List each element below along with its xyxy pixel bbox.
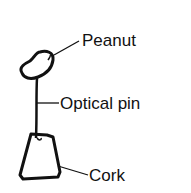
peanut-label: Peanut: [82, 32, 136, 49]
optical-pin: [36, 78, 37, 138]
peanut-crease: [48, 55, 50, 60]
cork-leader: [58, 166, 88, 175]
cork-label: Cork: [89, 167, 125, 184]
peanut-shape: [21, 51, 53, 78]
cork-pin-tip: [37, 138, 41, 140]
peanut-leader: [54, 41, 79, 55]
optical-pin-label: Optical pin: [60, 95, 140, 112]
cork-shape: [20, 134, 60, 179]
